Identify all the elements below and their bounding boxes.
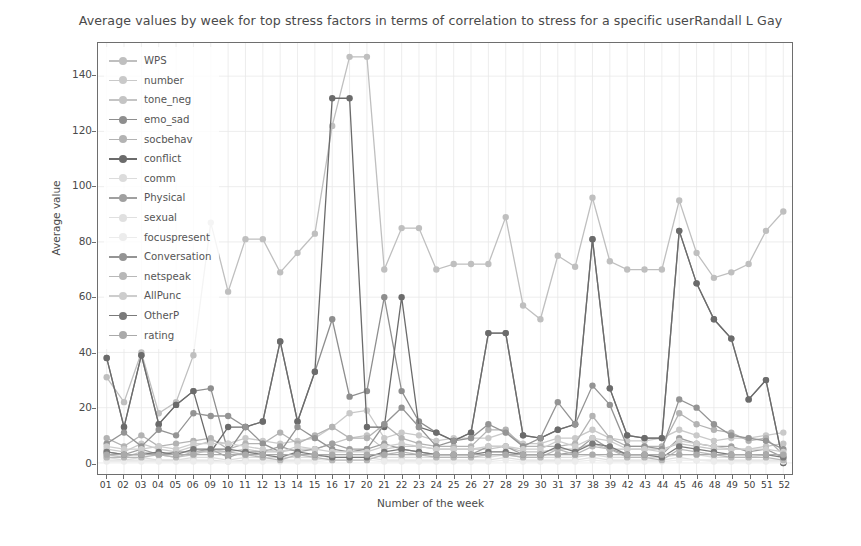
series-marker <box>156 458 162 464</box>
legend-item-sexual[interactable]: sexual <box>108 208 211 228</box>
x-tick-mark <box>349 475 350 479</box>
series-marker <box>416 458 422 464</box>
series-marker <box>260 451 266 457</box>
series-marker <box>121 399 127 405</box>
series-marker <box>416 451 422 457</box>
series-marker <box>329 95 335 101</box>
figure-canvas: Average values by week for top stress fa… <box>0 0 861 546</box>
legend-item-otherp[interactable]: OtherP <box>108 306 211 326</box>
x-tick-mark <box>280 475 281 479</box>
series-marker <box>537 446 543 452</box>
series-marker <box>745 446 751 452</box>
series-marker <box>416 443 422 449</box>
series-marker <box>190 446 196 452</box>
series-marker <box>711 316 717 322</box>
series-marker <box>208 458 214 464</box>
series-marker <box>329 316 335 322</box>
series-marker <box>607 443 613 449</box>
series-marker <box>433 266 439 272</box>
series-marker <box>520 302 526 308</box>
x-tick-mark <box>210 475 211 479</box>
series-marker <box>659 451 665 457</box>
series-marker <box>381 451 387 457</box>
legend-item-socbehav[interactable]: socbehav <box>108 129 211 149</box>
series-marker <box>745 396 751 402</box>
legend-item-label: tone_neg <box>138 94 191 105</box>
series-marker <box>624 451 630 457</box>
series-marker <box>711 275 717 281</box>
series-marker <box>468 435 474 441</box>
series-marker <box>503 330 509 336</box>
legend-marker-icon <box>108 212 138 224</box>
x-tick-mark <box>141 475 142 479</box>
series-marker <box>138 352 144 358</box>
series-marker <box>693 432 699 438</box>
legend-item-netspeak[interactable]: netspeak <box>108 267 211 287</box>
x-tick-mark <box>471 475 472 479</box>
series-marker <box>676 438 682 444</box>
series-marker <box>589 427 595 433</box>
series-marker <box>346 95 352 101</box>
series-marker <box>485 451 491 457</box>
legend-marker-icon <box>108 153 138 165</box>
series-marker <box>312 230 318 236</box>
series-marker <box>381 294 387 300</box>
legend: WPSnumbertone_negemo_sadsocbehavconflict… <box>104 47 219 349</box>
series-marker <box>346 451 352 457</box>
legend-item-physical[interactable]: Physical <box>108 188 211 208</box>
x-tick-mark <box>558 475 559 479</box>
series-marker <box>503 457 509 463</box>
x-tick-mark <box>193 475 194 479</box>
legend-item-rating[interactable]: rating <box>108 325 211 345</box>
legend-item-label: emo_sad <box>138 114 190 125</box>
legend-item-label: Conversation <box>138 251 211 262</box>
series-marker <box>711 458 717 464</box>
series-marker <box>450 261 456 267</box>
series-marker <box>103 374 109 380</box>
series-marker <box>156 451 162 457</box>
series-marker <box>485 427 491 433</box>
legend-item-wps[interactable]: WPS <box>108 51 211 71</box>
legend-item-label: netspeak <box>138 271 191 282</box>
series-marker <box>381 458 387 464</box>
legend-item-conversation[interactable]: Conversation <box>108 247 211 267</box>
series-marker <box>121 424 127 430</box>
series-marker <box>780 429 786 435</box>
series-marker <box>780 208 786 214</box>
series-marker <box>589 435 595 441</box>
x-tick-mark <box>680 475 681 479</box>
series-marker <box>745 451 751 457</box>
series-marker <box>208 440 214 446</box>
series-marker <box>364 451 370 457</box>
series-marker <box>485 421 491 427</box>
legend-item-label: socbehav <box>138 134 193 145</box>
x-tick-mark <box>610 475 611 479</box>
series-marker <box>329 440 335 446</box>
legend-item-number[interactable]: number <box>108 71 211 91</box>
x-tick-mark <box>332 475 333 479</box>
series-marker <box>277 429 283 435</box>
legend-item-focuspresent[interactable]: focuspresent <box>108 227 211 247</box>
series-marker <box>398 435 404 441</box>
legend-item-tone_neg[interactable]: tone_neg <box>108 90 211 110</box>
series-marker <box>676 410 682 416</box>
legend-item-label: sexual <box>138 212 177 223</box>
legend-item-allpunc[interactable]: AllPunc <box>108 286 211 306</box>
legend-item-conflict[interactable]: conflict <box>108 149 211 169</box>
series-marker <box>572 421 578 427</box>
series-marker <box>520 451 526 457</box>
series-marker <box>398 458 404 464</box>
series-marker <box>693 440 699 446</box>
series-marker <box>381 443 387 449</box>
series-marker <box>607 451 613 457</box>
series-marker <box>398 429 404 435</box>
series-marker <box>381 266 387 272</box>
x-tick-mark <box>715 475 716 479</box>
legend-item-comm[interactable]: comm <box>108 169 211 189</box>
legend-item-emo_sad[interactable]: emo_sad <box>108 110 211 130</box>
series-marker <box>468 451 474 457</box>
series-marker <box>208 385 214 391</box>
series-marker <box>312 369 318 375</box>
series-marker <box>173 451 179 457</box>
x-tick-mark <box>367 475 368 479</box>
